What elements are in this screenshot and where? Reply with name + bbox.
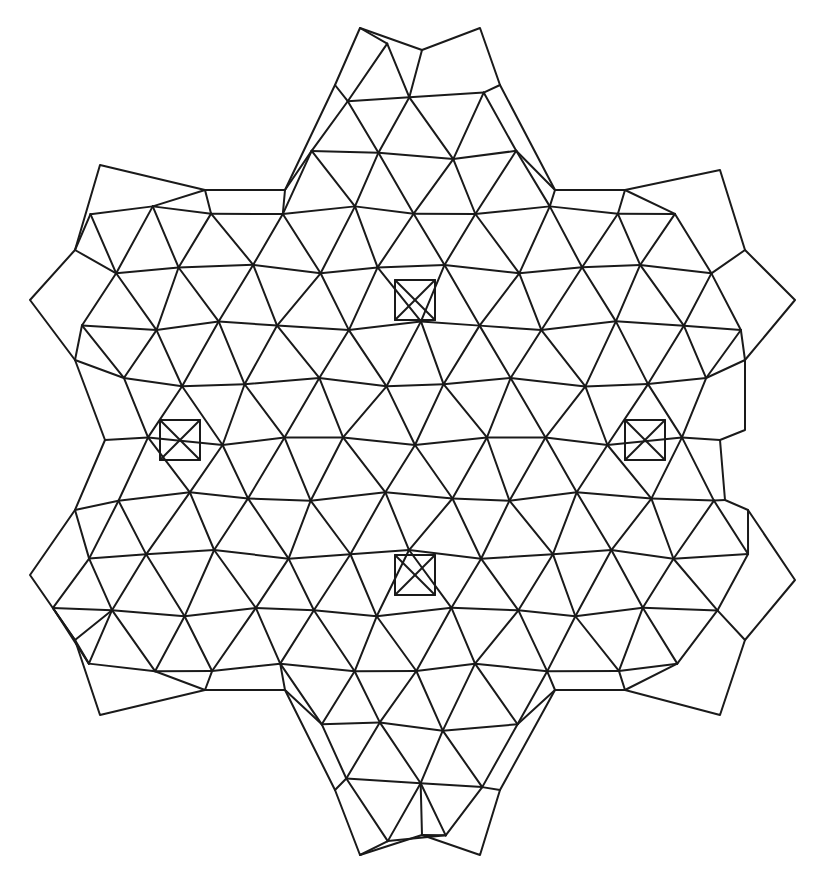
tile-edge bbox=[582, 265, 640, 267]
tile-edge bbox=[582, 267, 616, 321]
tile-edge bbox=[611, 499, 651, 550]
tile-edge bbox=[179, 214, 212, 268]
tile-edge bbox=[335, 85, 348, 101]
tile-edge bbox=[182, 321, 219, 386]
tile-edge bbox=[157, 330, 183, 386]
tile-edge bbox=[314, 610, 377, 616]
tile-edge bbox=[619, 608, 643, 671]
tile-edge bbox=[445, 265, 520, 273]
tile-edge bbox=[185, 550, 215, 616]
tile-edge bbox=[673, 559, 717, 611]
tile-edge bbox=[553, 554, 575, 616]
tile-edge bbox=[75, 325, 82, 360]
tile-edge bbox=[146, 550, 214, 554]
tile-edge bbox=[717, 554, 748, 610]
tile-edge bbox=[116, 267, 178, 273]
tile-edge bbox=[346, 779, 420, 784]
tile-edge bbox=[211, 214, 253, 265]
tile-edge bbox=[675, 214, 711, 273]
tile-edge bbox=[414, 214, 445, 265]
tile-edge bbox=[585, 321, 616, 386]
tile-edge bbox=[651, 437, 682, 498]
tile-edge bbox=[319, 378, 343, 437]
tile-edge bbox=[452, 437, 486, 498]
tile-edge bbox=[124, 330, 157, 378]
tile-edge bbox=[348, 44, 387, 102]
tile-edge bbox=[387, 386, 415, 445]
tile-edge bbox=[190, 492, 248, 498]
tile-edge bbox=[511, 378, 586, 386]
tile-edge bbox=[348, 97, 410, 101]
tile-edge bbox=[112, 610, 185, 616]
tile-edge bbox=[480, 273, 520, 325]
tile-edge bbox=[409, 50, 422, 97]
tile-edge bbox=[487, 378, 511, 437]
tile-edge bbox=[118, 501, 146, 555]
tile-edge bbox=[116, 273, 156, 330]
tile-edge bbox=[482, 787, 500, 790]
tile-edge bbox=[285, 378, 320, 438]
tile-edge bbox=[443, 724, 518, 730]
tile-edge bbox=[714, 500, 725, 501]
tile-edge bbox=[446, 787, 483, 835]
tile-edge bbox=[445, 265, 480, 326]
tile-edge bbox=[75, 501, 118, 510]
tile-edge bbox=[619, 671, 625, 690]
tile-edge bbox=[682, 378, 706, 437]
tile-edge bbox=[182, 384, 245, 386]
tile-edge bbox=[445, 214, 476, 265]
tile-edge bbox=[582, 214, 618, 268]
tile-edge bbox=[321, 267, 378, 273]
tile-edge bbox=[684, 273, 712, 325]
tile-edge bbox=[443, 664, 475, 731]
tile-edge bbox=[355, 206, 378, 267]
tile-edge bbox=[90, 214, 116, 273]
tile-edge bbox=[248, 498, 289, 558]
tile-edge bbox=[223, 445, 248, 498]
tile-edge bbox=[205, 671, 212, 690]
tile-edge bbox=[75, 214, 90, 250]
tile-edge bbox=[118, 492, 189, 500]
tile-edge bbox=[53, 608, 112, 610]
tile-edge bbox=[153, 206, 211, 213]
tile-edge bbox=[651, 499, 714, 501]
tile-edge bbox=[541, 321, 615, 330]
tile-edge bbox=[682, 437, 720, 440]
tile-edge bbox=[223, 384, 245, 445]
tile-edge bbox=[343, 386, 386, 437]
tile-edge bbox=[90, 206, 152, 214]
tile-edge bbox=[248, 438, 285, 499]
tile-edge bbox=[75, 510, 89, 559]
tile-edge bbox=[519, 206, 549, 273]
tile-edge bbox=[283, 214, 321, 273]
tile-edge bbox=[82, 273, 116, 325]
tile-edge bbox=[322, 671, 355, 724]
tile-edge bbox=[545, 386, 585, 437]
tile-edge bbox=[312, 151, 379, 153]
tile-edge bbox=[484, 93, 517, 151]
tile-edge bbox=[480, 326, 542, 330]
tile-edge bbox=[475, 664, 518, 725]
tile-edge bbox=[190, 445, 223, 492]
tile-edge bbox=[487, 437, 510, 500]
tile-edge bbox=[350, 554, 376, 616]
tile-edge bbox=[146, 554, 184, 616]
tile-edge bbox=[214, 550, 288, 559]
tile-edge bbox=[541, 267, 582, 330]
tile-edge bbox=[214, 498, 248, 550]
tile-edge bbox=[311, 437, 343, 500]
tile-edge bbox=[311, 501, 351, 555]
tile-edge bbox=[321, 273, 349, 330]
tile-edge bbox=[509, 501, 552, 555]
tile-edge bbox=[415, 445, 452, 498]
tile-edge bbox=[518, 554, 553, 610]
tile-edge bbox=[219, 321, 277, 325]
tile-edge bbox=[409, 97, 453, 159]
tile-edge bbox=[481, 554, 553, 559]
tile-edge bbox=[355, 616, 377, 671]
tile-edge bbox=[553, 492, 577, 554]
tile-edge bbox=[214, 550, 256, 608]
tile-edge bbox=[312, 151, 355, 206]
tile-edge bbox=[380, 722, 443, 730]
tile-edge bbox=[416, 608, 451, 671]
